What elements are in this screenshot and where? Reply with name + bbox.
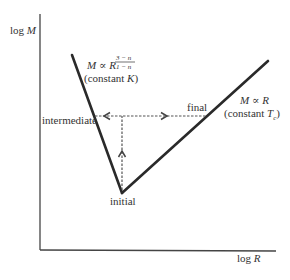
- constant-k-formula: M ∝ R: [86, 59, 116, 71]
- x-axis-label: log R: [237, 252, 261, 264]
- y-axis-label: log M: [10, 24, 37, 36]
- x-axis: [40, 250, 276, 251]
- intermediate-label: intermediate: [42, 114, 97, 126]
- constant-tc-formula: M ∝ R: [239, 94, 269, 106]
- exponent-denominator: 1 − n: [116, 63, 132, 71]
- constant-k-condition: (constant K): [84, 72, 138, 85]
- final-label: final: [187, 101, 207, 113]
- initial-label: initial: [110, 195, 136, 207]
- stellar-evolution-diagram: log M log R M ∝ R 3 − n 1 − n (constant …: [0, 0, 290, 280]
- constant-tc-condition: (constant Tc): [224, 107, 280, 122]
- constant-tc-line: [122, 61, 268, 193]
- exponent-numerator: 3 − n: [115, 54, 132, 62]
